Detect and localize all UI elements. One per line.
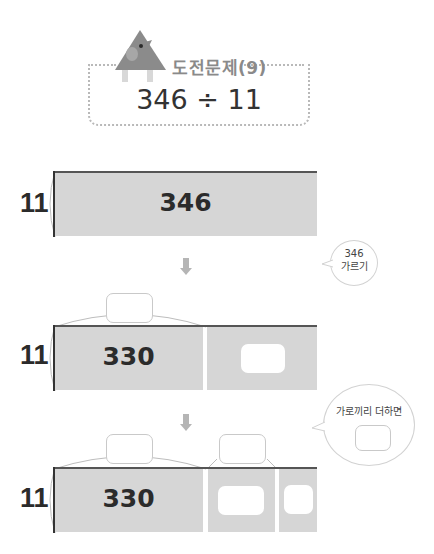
down-arrow-icon bbox=[180, 258, 192, 276]
bar-top-edge bbox=[54, 325, 317, 327]
answer-blank[interactable] bbox=[355, 425, 391, 451]
division-expression: 346 ÷ 11 bbox=[88, 84, 310, 115]
bar-top-edge bbox=[54, 467, 317, 469]
answer-blank[interactable] bbox=[284, 485, 313, 514]
bubble-line-2: 가르기 bbox=[330, 261, 378, 273]
bubble-line-1: 346 bbox=[330, 248, 378, 260]
bubble-text: 가로끼리 더하면 bbox=[323, 406, 415, 418]
bubble-tail-icon bbox=[310, 420, 326, 434]
down-arrow-icon bbox=[180, 414, 192, 432]
answer-blank[interactable] bbox=[241, 344, 285, 373]
mascot-icon bbox=[114, 28, 168, 84]
bar-value: 330 bbox=[54, 484, 203, 513]
answer-blank[interactable] bbox=[106, 434, 153, 464]
answer-blank[interactable] bbox=[218, 486, 264, 515]
bar-top-edge bbox=[54, 171, 317, 173]
answer-blank[interactable] bbox=[106, 293, 153, 323]
challenge-title: 도전문제(9) bbox=[172, 54, 267, 79]
bar-value: 346 bbox=[54, 188, 317, 217]
bar-value: 330 bbox=[54, 342, 203, 371]
answer-blank[interactable] bbox=[219, 434, 266, 464]
